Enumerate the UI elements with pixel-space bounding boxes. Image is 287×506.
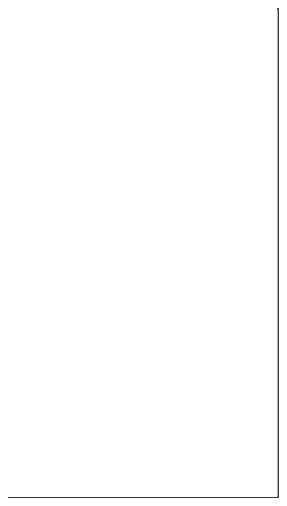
figure-page: Anterior view of a male human body silho… [0,0,287,506]
figure-frame-overlay [8,8,277,497]
